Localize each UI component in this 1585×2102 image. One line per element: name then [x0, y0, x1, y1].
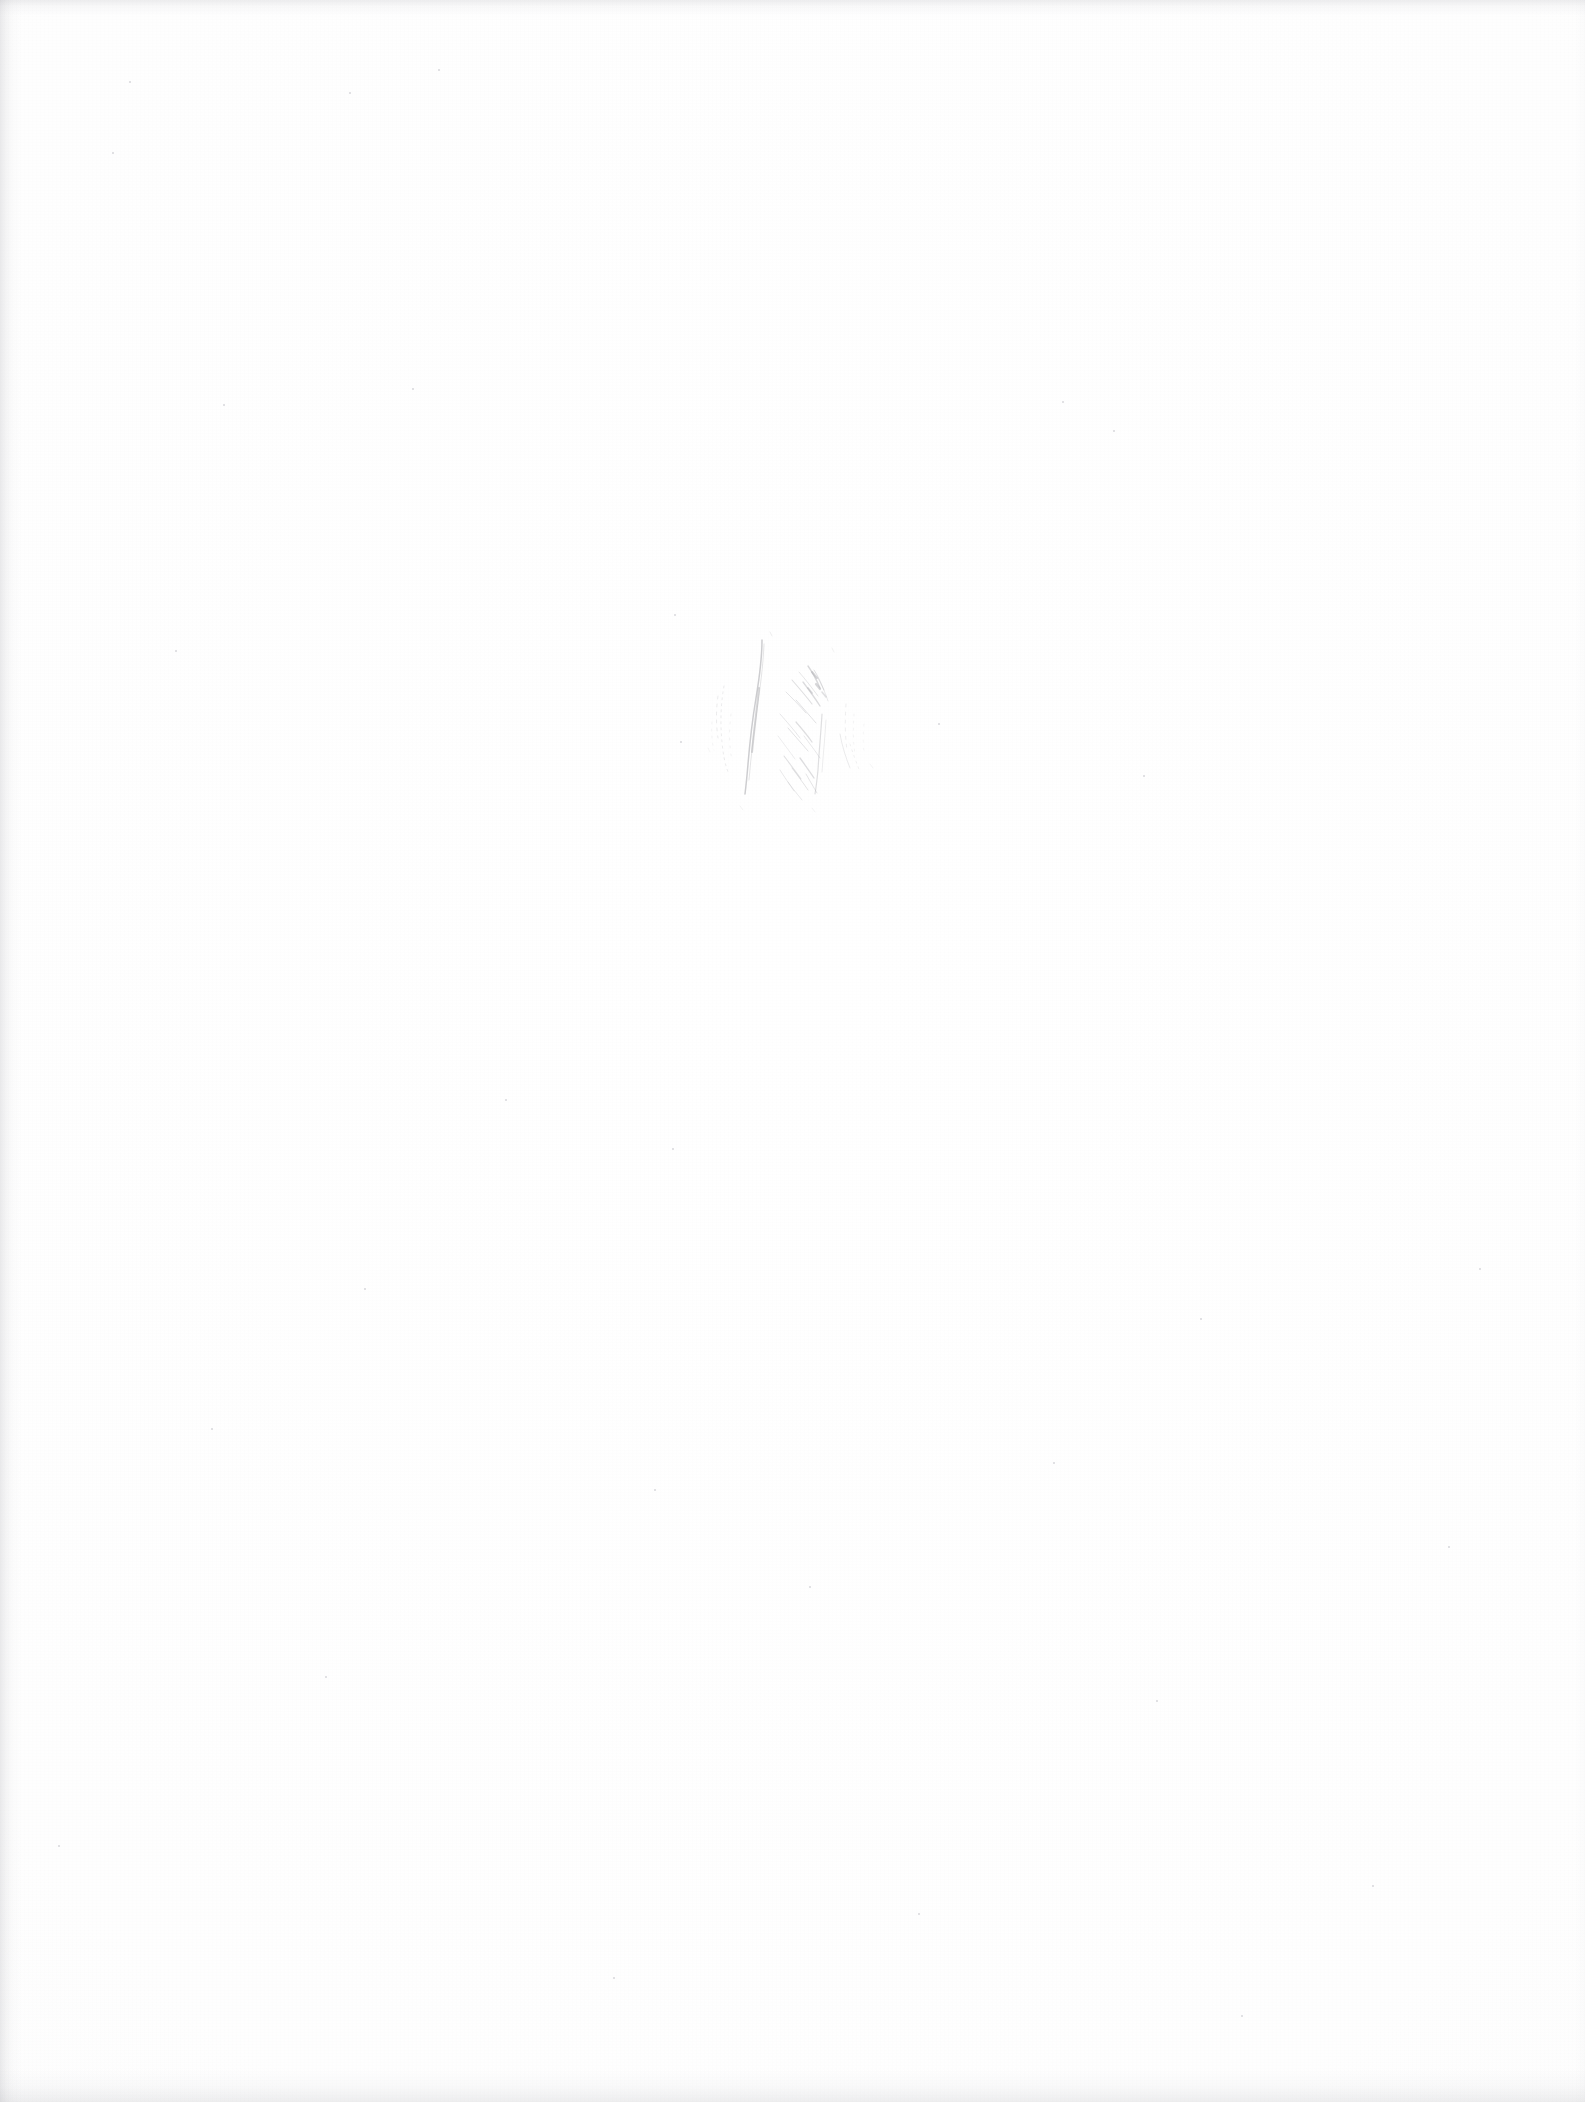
dust-speck — [364, 1288, 366, 1290]
dust-speck — [129, 81, 131, 83]
dust-speck — [325, 1676, 327, 1678]
dust-speck — [1113, 430, 1115, 432]
dust-speck — [223, 404, 225, 406]
dust-speck — [918, 1913, 920, 1915]
dust-speck — [1241, 2015, 1243, 2017]
dust-speck — [680, 741, 682, 743]
dust-speck — [674, 614, 676, 616]
dust-speck — [1479, 1268, 1481, 1270]
dust-speck — [1053, 1462, 1055, 1464]
dust-speck — [672, 1148, 674, 1150]
dust-speck — [654, 1489, 656, 1491]
pencil-smudge-mark — [700, 618, 900, 818]
dust-specks-layer — [0, 0, 1585, 2102]
scanned-page — [0, 0, 1585, 2102]
dust-speck — [1156, 1700, 1158, 1702]
dust-speck — [1448, 1546, 1450, 1548]
dust-speck — [438, 69, 440, 71]
dust-speck — [112, 152, 114, 154]
dust-speck — [809, 1586, 811, 1588]
dust-speck — [505, 1099, 507, 1101]
dust-speck — [349, 92, 351, 94]
dust-speck — [175, 650, 177, 652]
dust-speck — [1062, 401, 1064, 403]
dust-speck — [211, 1428, 213, 1430]
dust-speck — [938, 723, 940, 725]
dust-speck — [1200, 1318, 1202, 1320]
dust-speck — [412, 388, 414, 390]
dust-speck — [1143, 775, 1145, 777]
dust-speck — [613, 1977, 615, 1979]
dust-speck — [58, 1845, 60, 1847]
dust-speck — [1372, 1885, 1374, 1887]
